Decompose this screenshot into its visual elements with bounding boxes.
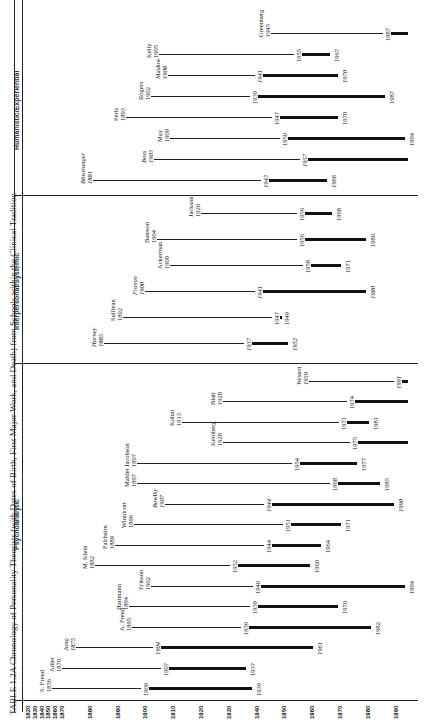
birth-to-work-line — [137, 463, 291, 464]
death-year: 1987 — [388, 91, 395, 104]
birth-year: 1907 — [158, 495, 165, 508]
birth-year: 1889 — [108, 536, 115, 549]
axis-tick-label: 1890 — [115, 706, 121, 719]
death-year: 1970 — [341, 112, 348, 125]
death-year: 1994 — [408, 133, 415, 146]
birth-to-work-line — [104, 343, 245, 344]
work-to-death-line — [355, 400, 408, 403]
birth-year: 1882 — [88, 556, 95, 569]
death-year: 1961 — [316, 642, 323, 655]
theorist-name: Maslow — [154, 58, 161, 79]
axis-tick-label: 1830 — [32, 706, 38, 719]
major-work-year: 1991 — [395, 376, 402, 389]
major-work-year: 1974 — [348, 396, 355, 409]
axis-tick-label: 1870 — [59, 706, 65, 719]
major-work-year: 1907 — [162, 663, 169, 676]
axis-tick-label: 1880 — [87, 706, 93, 719]
axis-tick-label: 1930 — [226, 706, 232, 719]
birth-to-work-line — [168, 75, 256, 76]
major-work-year: 1944 — [265, 499, 272, 512]
major-work-year: 1975 — [351, 437, 358, 450]
work-to-death-line — [280, 316, 282, 319]
birth-year: 1903 — [147, 150, 154, 163]
work-to-death-line — [338, 482, 379, 485]
birth-to-work-line — [137, 483, 330, 484]
death-year: 1966 — [330, 175, 337, 188]
axis-tick-label: 1840 — [39, 706, 45, 719]
birth-to-work-line — [132, 627, 242, 628]
work-to-death-line — [300, 462, 358, 465]
work-to-death-line — [272, 544, 322, 547]
work-to-death-line — [280, 116, 338, 119]
theorist-name: Fairbairn — [101, 525, 108, 549]
death-year: 1968 — [335, 208, 342, 221]
birth-year: 1895 — [125, 618, 132, 631]
major-work-year: 1947 — [273, 312, 280, 325]
major-work-year: 1955 — [295, 49, 302, 62]
theorist-name: Mahler — [123, 468, 130, 487]
work-to-death-line — [258, 605, 338, 608]
death-year: 1964 — [324, 540, 331, 553]
work-to-death-line — [308, 158, 408, 161]
death-year: 1980 — [369, 286, 376, 299]
birth-year: 1905 — [152, 45, 159, 58]
work-to-death-line — [149, 687, 251, 690]
major-work-year: 1954 — [293, 458, 300, 471]
major-work-year: 1936 — [242, 622, 249, 635]
axis-tick-label: 1900 — [142, 706, 148, 719]
major-work-year: 1937 — [245, 338, 252, 351]
major-work-year: 1958 — [304, 260, 311, 273]
axis-tick-label: 1970 — [337, 706, 343, 719]
birth-year: 1900 — [138, 282, 145, 295]
work-to-death-line — [391, 32, 408, 35]
major-work-year: 1939 — [251, 91, 258, 104]
work-to-death-line — [291, 523, 341, 526]
death-year: 1982 — [374, 622, 381, 635]
death-year: 1980 — [369, 234, 376, 247]
major-work-year: 1951 — [284, 519, 291, 532]
birth-to-work-line — [62, 668, 161, 669]
work-to-death-line — [402, 380, 408, 383]
theorist-name: Horney — [90, 328, 97, 348]
section-label-humanistic-experiential: Humanistic/Experiential — [13, 71, 20, 150]
birth-to-work-line — [182, 422, 339, 423]
theorist-name: Jacobson — [123, 443, 130, 467]
major-work-year: 1956 — [298, 234, 305, 247]
birth-to-work-line — [170, 265, 302, 266]
birth-to-work-line — [126, 117, 272, 118]
death-year: 1967 — [333, 49, 340, 62]
birth-year: 1920 — [194, 204, 201, 217]
death-year: 1939 — [255, 683, 262, 696]
major-work-year: 1987 — [384, 28, 391, 41]
death-year: 1977 — [360, 458, 367, 471]
death-year: 1990 — [397, 499, 404, 512]
theorist-name: Hartmann — [115, 584, 122, 610]
death-year: 1981 — [372, 417, 379, 430]
death-year: 1985 — [383, 478, 390, 491]
section-divider — [14, 363, 418, 364]
birth-to-work-line — [151, 586, 253, 587]
axis-tick-label: 1920 — [198, 706, 204, 719]
birth-year: 1913 — [175, 413, 182, 426]
major-work-year: 1900 — [142, 683, 149, 696]
birth-to-work-line — [52, 688, 141, 689]
birth-to-work-line — [95, 565, 230, 566]
theorist-name: Adler — [48, 657, 55, 672]
theorist-name: Boss — [140, 151, 147, 163]
major-work-year: 1941 — [256, 70, 263, 83]
birth-to-work-line — [129, 606, 250, 607]
axis-tick-label: 1940 — [254, 706, 260, 719]
axis-tick-label: 1850 — [45, 706, 51, 719]
section-divider — [14, 195, 418, 196]
work-to-death-line — [261, 585, 405, 588]
major-work-year: 1971 — [340, 417, 347, 430]
work-to-death-line — [347, 421, 369, 424]
birth-year: 1909 — [163, 256, 170, 269]
work-to-death-line — [249, 626, 371, 629]
major-work-year: 1943 — [262, 175, 269, 188]
theorist-name: Binswanger — [79, 153, 86, 184]
axis-line — [14, 700, 418, 701]
death-year: 1994 — [408, 581, 415, 594]
section-label-psychoanalytic: Psychoanalytic — [13, 499, 20, 550]
birth-year: 1909 — [163, 129, 170, 142]
